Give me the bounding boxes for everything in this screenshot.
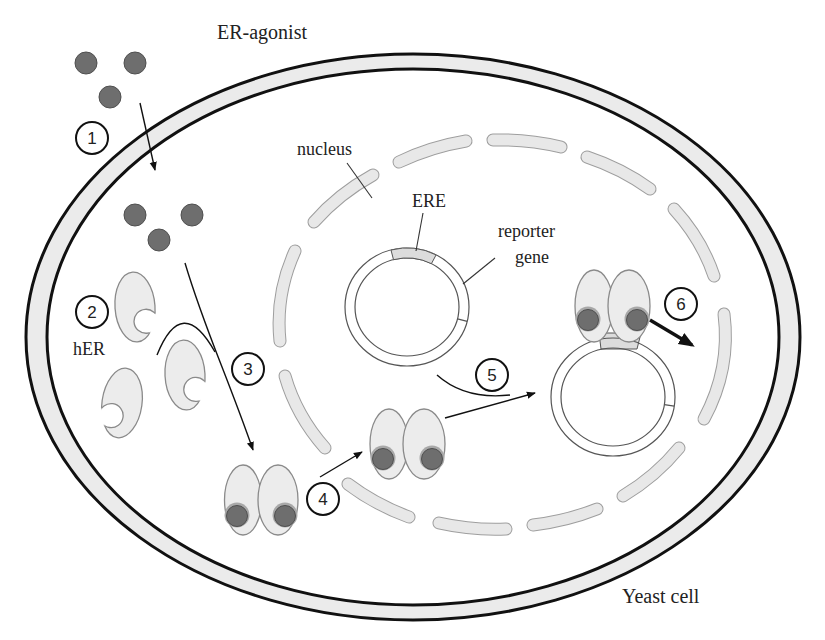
bound-agonist-icon xyxy=(422,449,443,470)
bound-agonist-icon xyxy=(578,310,599,331)
agonist-molecule-icon xyxy=(124,204,146,226)
step-badge-3: 3 xyxy=(232,353,264,385)
nucleus-label: nucleus xyxy=(297,139,352,159)
yeast-estrogen-screen-diagram: ER-agonist nucleus ERE reporter gene hER… xyxy=(0,0,825,640)
agonist-molecule-icon xyxy=(148,229,170,251)
step-number: 3 xyxy=(243,360,252,379)
bound-agonist-icon xyxy=(227,506,248,527)
bound-agonist-icon xyxy=(275,506,296,527)
agonist-molecules-outside xyxy=(75,52,146,108)
step-badge-2: 2 xyxy=(76,296,108,328)
step-number: 5 xyxy=(487,366,496,385)
agonist-molecule-icon xyxy=(75,52,97,74)
step-badge-4: 4 xyxy=(307,483,339,515)
agonist-molecule-icon xyxy=(99,86,121,108)
step-badge-5: 5 xyxy=(476,359,508,391)
step-number: 4 xyxy=(318,490,327,509)
her-label: hER xyxy=(73,339,105,359)
agonist-molecule-icon xyxy=(181,204,203,226)
agonist-molecule-icon xyxy=(124,52,146,74)
ere-label: ERE xyxy=(412,191,446,211)
yeast-cell-label: Yeast cell xyxy=(622,585,700,607)
step-number: 1 xyxy=(87,129,96,148)
step-badge-1: 1 xyxy=(76,122,108,154)
reporter-label-line1: reporter xyxy=(498,221,555,241)
agonist-label: ER-agonist xyxy=(217,21,307,44)
bound-agonist-icon xyxy=(627,310,648,331)
step-number: 2 xyxy=(87,303,96,322)
bound-agonist-icon xyxy=(373,449,394,470)
step-badge-6: 6 xyxy=(665,288,697,320)
step-number: 6 xyxy=(676,295,685,314)
reporter-label-line2: gene xyxy=(515,247,549,267)
